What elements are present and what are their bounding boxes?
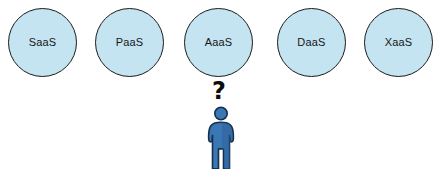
service-node-daas[interactable]: DaaS: [277, 8, 346, 77]
service-node-paas[interactable]: PaaS: [95, 8, 164, 77]
service-node-label: DaaS: [297, 37, 325, 48]
service-node-xaas[interactable]: XaaS: [364, 8, 433, 77]
service-node-label: XaaS: [385, 37, 413, 48]
question-mark-icon: ?: [203, 79, 235, 103]
service-node-saas[interactable]: SaaS: [8, 8, 77, 77]
person-pictogram-icon: [201, 106, 241, 169]
service-node-label: AaaS: [205, 37, 233, 48]
service-node-label: SaaS: [29, 37, 57, 48]
service-node-aaas[interactable]: AaaS: [184, 8, 253, 77]
service-node-label: PaaS: [116, 37, 144, 48]
diagram-canvas: SaaS PaaS AaaS DaaS XaaS ?: [0, 0, 442, 169]
